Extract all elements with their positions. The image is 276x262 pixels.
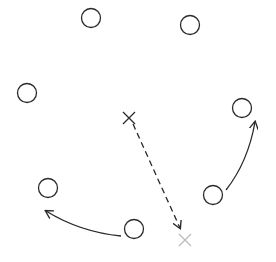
play-diagram [0, 0, 276, 262]
player-circle-icon [204, 186, 223, 205]
player-circle-icon [125, 220, 144, 239]
player-circle-icon [233, 99, 252, 118]
curve-left-arrow [46, 211, 121, 236]
player-circle-icon [82, 9, 101, 28]
movement-paths [46, 122, 255, 236]
x-markers [123, 112, 191, 246]
x-marker-icon [179, 234, 191, 246]
player-circle-icon [181, 16, 200, 35]
x-marker-icon [123, 112, 135, 124]
player-circle-icon [39, 179, 58, 198]
dashed-run-arrow [133, 124, 180, 228]
diagram-svg [0, 0, 276, 262]
player-circle-icon [18, 84, 37, 103]
curve-right-arrow [226, 122, 255, 190]
